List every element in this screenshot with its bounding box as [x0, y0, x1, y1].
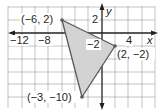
y-axis-down-arrow-icon	[100, 103, 105, 110]
coordinate-plane-figure: −12 −8 4 x 2 −2 y (−6, 2) (2, −2) (−3, −…	[0, 0, 162, 111]
shaded-triangle	[62, 20, 115, 97]
x-tick-label: −8	[38, 34, 51, 46]
vertex-label-b: (2, −2)	[117, 48, 149, 60]
vertex-label-c: (−3, −10)	[27, 91, 72, 103]
y-axis-up-arrow-icon	[100, 3, 105, 10]
x-tick-label: −12	[10, 34, 29, 46]
coordinate-plane: −12 −8 4 x 2 −2 y (−6, 2) (2, −2) (−3, −…	[0, 0, 162, 111]
y-tick-label: 2	[92, 13, 98, 25]
y-tick-label: −2	[87, 38, 100, 50]
x-axis-label: x	[146, 34, 153, 46]
vertex-point-a	[60, 18, 64, 22]
x-tick-label: 4	[126, 34, 132, 46]
vertex-point-c	[80, 95, 84, 99]
vertex-label-a: (−6, 2)	[21, 13, 53, 25]
